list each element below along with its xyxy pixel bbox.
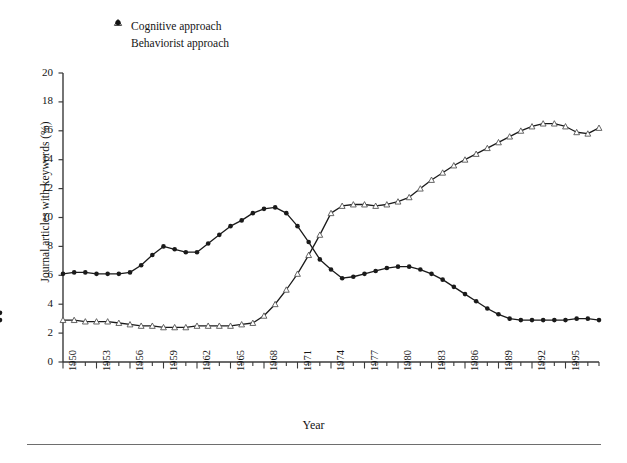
data-point-marker: [172, 247, 177, 252]
data-point-marker: [496, 312, 501, 317]
y-tick-label: 12: [27, 181, 53, 193]
y-tick-label: 20: [27, 66, 53, 78]
data-point-marker: [61, 272, 66, 277]
x-tick-label: 1974: [335, 350, 346, 371]
data-point-marker: [351, 274, 356, 279]
data-point-marker: [295, 271, 301, 276]
x-tick-label: 1989: [503, 350, 514, 371]
x-tick-label: 1983: [436, 350, 447, 371]
data-point-marker: [362, 272, 367, 277]
series-line: [63, 124, 599, 328]
x-tick-label: 1965: [235, 350, 246, 371]
figure-container: Cognitive approach Behaviorist approach …: [0, 0, 627, 463]
data-point-marker: [83, 270, 88, 275]
y-tick-label: 18: [27, 94, 53, 106]
x-tick-label: 1950: [67, 350, 78, 371]
x-tick-label: 1968: [268, 350, 279, 371]
y-tick-label: 14: [27, 152, 53, 164]
x-tick-label: 1992: [536, 350, 547, 371]
data-point-marker: [340, 276, 345, 281]
data-point-marker: [496, 139, 502, 144]
x-tick-label: 1971: [302, 350, 313, 371]
data-point-marker: [195, 250, 200, 255]
y-tick-label: 4: [27, 297, 53, 309]
data-point-marker: [329, 267, 334, 272]
data-point-marker: [396, 264, 401, 269]
data-point-marker: [597, 318, 602, 323]
data-point-marker: [473, 151, 479, 156]
data-point-marker: [228, 224, 233, 229]
y-tick-label: 2: [27, 326, 53, 338]
series-group: [0, 121, 602, 330]
data-point-marker: [0, 318, 2, 323]
y-tick-label: 10: [27, 210, 53, 222]
data-point-marker: [150, 253, 155, 258]
data-point-marker: [318, 257, 323, 262]
data-point-marker: [596, 125, 602, 130]
data-point-marker: [463, 292, 468, 297]
data-point-marker: [295, 224, 300, 229]
series-behaviorist: [0, 205, 601, 322]
data-point-marker: [373, 269, 378, 274]
data-point-marker: [284, 211, 289, 216]
x-tick-label: 1962: [201, 350, 212, 371]
data-point-marker: [385, 266, 390, 271]
data-point-marker: [418, 267, 423, 272]
x-tick-label: 1986: [469, 350, 480, 371]
data-point-marker: [217, 233, 222, 238]
series-line: [63, 207, 599, 320]
data-point-marker: [306, 252, 312, 257]
data-point-marker: [139, 263, 144, 268]
x-tick-label: 1953: [101, 350, 112, 371]
data-point-marker: [484, 145, 490, 150]
data-point-marker: [507, 134, 513, 139]
data-point-marker: [451, 163, 457, 168]
data-point-marker: [586, 316, 591, 321]
x-tick-label: 1980: [402, 350, 413, 371]
data-point-marker: [429, 272, 434, 277]
data-point-marker: [552, 318, 557, 323]
y-tick-label: 6: [27, 268, 53, 280]
data-point-marker: [474, 299, 479, 304]
data-point-marker: [507, 316, 512, 321]
data-point-marker: [440, 170, 446, 175]
chart-plot: [0, 0, 627, 463]
data-point-marker: [574, 316, 579, 321]
data-point-marker: [462, 157, 468, 162]
data-point-marker: [0, 311, 2, 316]
data-point-marker: [105, 272, 110, 277]
data-point-marker: [94, 272, 99, 277]
axes-group: [59, 73, 600, 369]
data-point-marker: [563, 318, 568, 323]
data-point-marker: [251, 211, 256, 216]
data-point-marker: [262, 207, 267, 212]
data-point-marker: [184, 250, 189, 255]
data-point-marker: [328, 210, 334, 215]
data-point-marker: [117, 272, 122, 277]
data-point-marker: [530, 318, 535, 323]
data-point-marker: [273, 205, 278, 210]
data-point-marker: [128, 270, 133, 275]
y-tick-label: 16: [27, 123, 53, 135]
y-tick-label: 8: [27, 239, 53, 251]
x-tick-label: 1956: [134, 350, 145, 371]
x-tick-label: 1977: [369, 350, 380, 371]
x-tick-label: 1959: [168, 350, 179, 371]
x-tick-label: 1995: [570, 350, 581, 371]
data-point-marker: [306, 240, 311, 245]
data-point-marker: [161, 244, 166, 249]
data-point-marker: [519, 318, 524, 323]
data-point-marker: [485, 306, 490, 311]
series-cognitive: [60, 121, 602, 330]
data-point-marker: [429, 177, 435, 182]
y-tick-label: 0: [27, 355, 53, 367]
data-point-marker: [317, 232, 323, 237]
data-point-marker: [541, 318, 546, 323]
data-point-marker: [206, 241, 211, 246]
data-point-marker: [440, 277, 445, 282]
data-point-marker: [452, 285, 457, 290]
data-point-marker: [407, 264, 412, 269]
data-point-marker: [72, 270, 77, 275]
data-point-marker: [239, 218, 244, 223]
